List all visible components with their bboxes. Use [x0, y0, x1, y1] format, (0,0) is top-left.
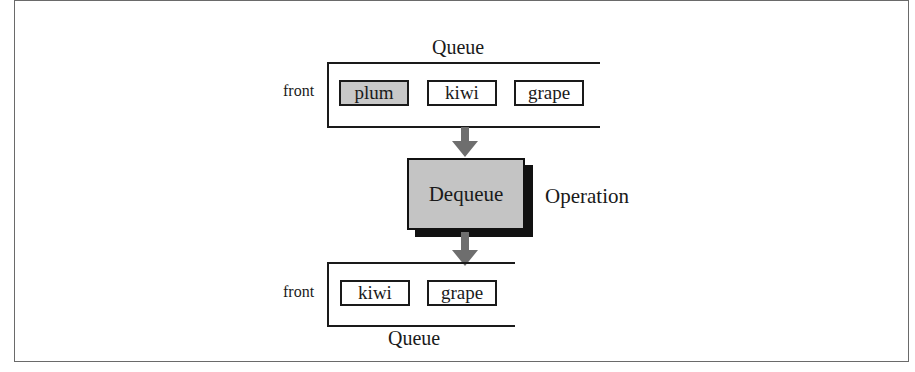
arrow-down-icon	[452, 127, 478, 158]
queue-after-front-label: front	[283, 283, 314, 301]
queue-before-item-kiwi: kiwi	[427, 80, 497, 106]
queue-before-item-plum: plum	[339, 80, 409, 106]
queue-before-item-grape: grape	[514, 80, 584, 106]
queue-before-front-label: front	[283, 82, 314, 100]
dequeue-operation-box: Dequeue	[407, 158, 525, 230]
queue-after-item-kiwi: kiwi	[340, 280, 410, 306]
queue-before-label: Queue	[432, 36, 484, 59]
arrow-down-icon	[452, 232, 478, 266]
queue-after-label: Queue	[388, 327, 440, 350]
operation-label: Operation	[545, 184, 629, 209]
queue-after-item-grape: grape	[427, 280, 497, 306]
